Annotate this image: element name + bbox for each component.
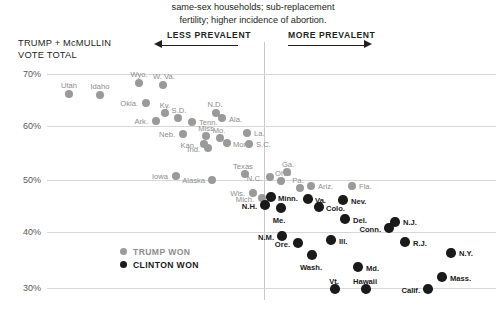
data-label-ny: N.Y. (459, 250, 473, 258)
legend-label-trump: TRUMP WON (133, 247, 190, 257)
data-point-sc (245, 140, 254, 149)
data-point-idaho (96, 91, 105, 100)
data-label-hawaii: Hawaii (0, 278, 496, 286)
data-point-ind (204, 144, 213, 153)
data-point-ala (218, 114, 227, 123)
data-label-pa: Pa. (0, 177, 496, 185)
data-point-me (276, 203, 286, 213)
clinton-dot-icon (120, 261, 127, 268)
scatter-plot: 70%60%50%40%30%UtahIdahoWyo.W. Va.Okla.K… (0, 0, 496, 311)
data-point-ill (326, 235, 336, 245)
data-label-nev: Nev. (351, 198, 366, 206)
chart-root: same-sex households; sub-replacement fer… (0, 0, 496, 311)
data-point-la (243, 129, 252, 138)
data-point-mass (437, 272, 447, 282)
data-label-minn: Minn. (278, 195, 298, 203)
data-label-wash: Wash. (0, 264, 496, 272)
data-label-mass: Mass. (450, 275, 471, 283)
data-label-ind: Ind. (0, 146, 200, 154)
data-label-la: La. (254, 130, 265, 138)
data-label-conn: Conn. (0, 226, 381, 234)
data-label-me: Me. (0, 217, 496, 225)
data-label-del: Del. (353, 217, 367, 225)
data-point-conn (384, 223, 394, 233)
legend-label-clinton: CLINTON WON (133, 260, 199, 270)
data-label-nh: N.H. (0, 203, 257, 211)
data-point-md (353, 262, 363, 272)
data-label-nd: N.D. (0, 101, 430, 109)
data-point-ore (293, 238, 303, 248)
trump-dot-icon (120, 248, 127, 255)
data-point-ariz (307, 182, 316, 191)
legend-item-clinton: CLINTON WON (120, 258, 199, 271)
data-label-idaho: Idaho (0, 83, 200, 91)
data-point-mont (223, 139, 232, 148)
data-label-nj: N.J. (403, 219, 417, 227)
data-label-ariz: Ariz. (318, 183, 333, 191)
data-point-rj (400, 237, 410, 247)
data-point-fla (348, 182, 357, 191)
data-point-calif (423, 284, 433, 294)
data-label-wva: W. Va. (0, 73, 328, 81)
data-label-calif: Calif. (0, 287, 420, 295)
data-label-fla: Fla. (359, 183, 372, 191)
data-label-colo: Colo. (326, 205, 345, 213)
data-point-nev (338, 195, 348, 205)
data-label-mo: Mo. (0, 127, 438, 135)
data-label-ill: Ill. (339, 238, 347, 246)
data-label-ala: Ala. (229, 116, 242, 124)
data-point-ny (446, 248, 456, 258)
legend-item-trump: TRUMP WON (120, 245, 199, 258)
data-label-md: Md. (366, 265, 379, 273)
legend: TRUMP WON CLINTON WON (120, 245, 199, 271)
data-point-va (303, 194, 313, 204)
data-label-ga: Ga. (0, 161, 496, 169)
data-label-sc: S.C. (256, 141, 271, 149)
data-label-rj: R.J. (413, 240, 427, 248)
data-point-del (340, 214, 350, 224)
data-point-nh (260, 200, 270, 210)
data-point-colo (314, 202, 324, 212)
data-point-wash (307, 250, 317, 260)
